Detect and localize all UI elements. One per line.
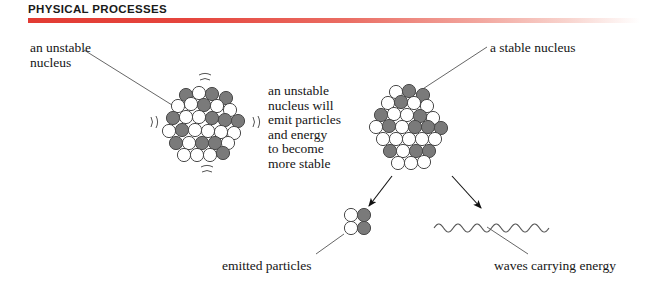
- nucleon-neutron: [407, 96, 420, 109]
- nucleon-neutron: [192, 86, 205, 99]
- nucleon-neutron: [417, 155, 430, 168]
- vibration-mark-top: [199, 73, 211, 80]
- energy-wave: [434, 224, 549, 232]
- nucleon-proton: [231, 114, 244, 127]
- nucleon-neutron: [376, 132, 389, 145]
- emitted-label-to-particles: [316, 234, 344, 254]
- nucleon-proton: [169, 136, 182, 149]
- nucleon-neutron: [203, 148, 216, 161]
- nucleon-proton: [205, 87, 218, 100]
- nucleon-proton: [218, 113, 231, 126]
- nucleon-proton: [357, 208, 370, 221]
- nucleon-neutron: [344, 208, 357, 221]
- nucleon-neutron: [391, 156, 404, 169]
- nucleon-neutron: [190, 148, 203, 161]
- nucleon-proton: [402, 84, 415, 97]
- diagram-page: PHYSICAL PROCESSES an unstable nucleus a…: [0, 0, 654, 294]
- nucleon-neutron: [396, 144, 409, 157]
- label-center-caption: an unstable nucleus will emit particles …: [268, 84, 341, 171]
- unstable-nucleus: [162, 86, 244, 161]
- nucleon-proton: [216, 146, 229, 159]
- nucleon-neutron: [188, 123, 201, 136]
- nucleon-neutron: [428, 132, 441, 145]
- arrow-to-emitted-particles: [369, 176, 392, 206]
- label-stable-nucleus: a stable nucleus: [490, 40, 575, 55]
- nucleon-neutron: [162, 124, 175, 137]
- wave-path: [434, 224, 549, 232]
- vibration-mark-right: [253, 116, 260, 128]
- nucleon-proton: [357, 221, 370, 234]
- nucleon-neutron: [177, 148, 190, 161]
- nucleon-neutron: [344, 221, 357, 234]
- nucleon-proton: [409, 144, 422, 157]
- nucleon-neutron: [395, 120, 408, 133]
- nucleon-neutron: [415, 132, 428, 145]
- nucleon-neutron: [404, 156, 417, 169]
- nucleon-proton: [374, 108, 387, 121]
- label-waves-carrying-energy: waves carrying energy: [494, 258, 616, 273]
- nucleon-neutron: [201, 124, 214, 137]
- nucleon-proton: [382, 119, 395, 132]
- nucleon-proton: [195, 136, 208, 149]
- nucleon-neutron: [400, 108, 413, 121]
- nucleon-proton: [205, 111, 218, 124]
- nucleon-proton: [383, 144, 396, 157]
- nucleon-neutron: [184, 97, 197, 110]
- nucleon-proton: [394, 95, 407, 108]
- nucleon-neutron: [210, 99, 223, 112]
- stable-nucleus: [369, 84, 447, 169]
- arrow-to-waves: [452, 176, 481, 208]
- nucleon-neutron: [179, 110, 192, 123]
- nucleon-neutron: [402, 132, 415, 145]
- nucleon-neutron: [387, 107, 400, 120]
- nucleon-neutron: [182, 136, 195, 149]
- nucleon-proton: [166, 111, 179, 124]
- nucleon-proton: [197, 98, 210, 111]
- emitted-particles-cluster: [344, 208, 370, 234]
- unstable-label-to-nucleus: [84, 50, 180, 110]
- nucleon-proton: [408, 120, 421, 133]
- nucleon-neutron: [171, 99, 184, 112]
- vibration-mark-left: [151, 116, 158, 128]
- nucleon-proton: [175, 123, 188, 136]
- vibration-mark-bottom: [201, 165, 213, 172]
- label-emitted-particles: emitted particles: [222, 258, 312, 273]
- nucleon-neutron: [369, 120, 382, 133]
- nucleon-neutron: [192, 110, 205, 123]
- decay-arrows-group: [369, 176, 481, 208]
- label-unstable-nucleus: an unstable nucleus: [30, 40, 91, 70]
- nucleon-proton: [421, 120, 434, 133]
- nucleon-neutron: [389, 132, 402, 145]
